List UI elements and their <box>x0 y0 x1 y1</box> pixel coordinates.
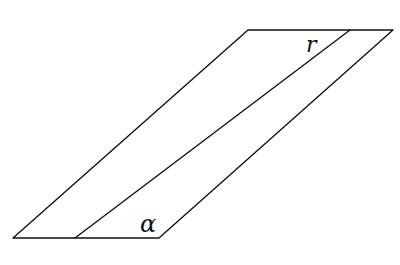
plane-alpha-label: α <box>140 210 156 238</box>
line-r-label: r <box>306 32 318 57</box>
plane-alpha-parallelogram <box>13 30 393 238</box>
plane-with-line-diagram: r α <box>0 0 400 265</box>
